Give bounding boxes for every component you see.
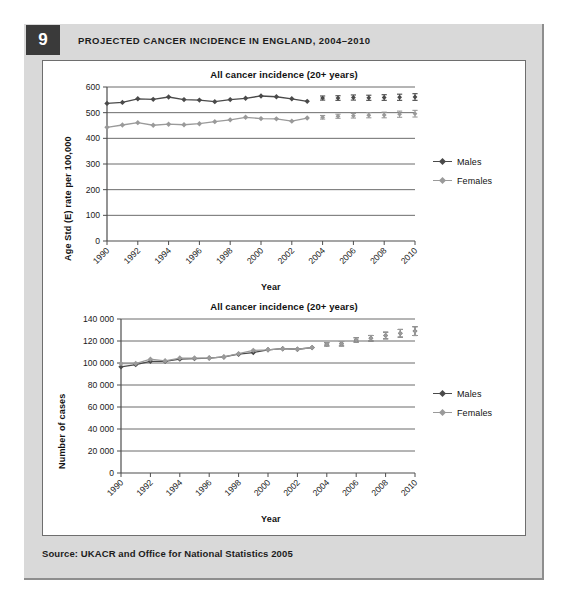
cases-chart: All cancer incidence (20+ years) Number …	[43, 301, 525, 529]
legend-item-males[interactable]: Males	[433, 154, 492, 169]
svg-text:0: 0	[95, 236, 100, 246]
svg-text:40 000: 40 000	[88, 424, 115, 434]
svg-text:300: 300	[86, 159, 101, 169]
svg-text:1998: 1998	[222, 477, 243, 498]
legend-item-females[interactable]: Females	[433, 405, 492, 420]
rate-chart: All cancer incidence (20+ years) Age Std…	[43, 69, 525, 297]
svg-text:2000: 2000	[252, 477, 273, 498]
svg-text:2008: 2008	[369, 477, 390, 498]
figure-header: 9 PROJECTED CANCER INCIDENCE IN ENGLAND,…	[24, 24, 544, 60]
svg-text:2006: 2006	[340, 477, 361, 498]
figure-number-badge: 9	[26, 25, 60, 55]
svg-text:2002: 2002	[281, 477, 302, 498]
svg-text:400: 400	[86, 133, 101, 143]
svg-text:600: 600	[86, 82, 101, 92]
chart-canvas: All cancer incidence (20+ years) Age Std…	[42, 60, 526, 536]
legend-marker-icon	[433, 157, 452, 167]
svg-text:1990: 1990	[105, 477, 126, 498]
legend-marker-icon	[433, 176, 452, 186]
svg-text:1992: 1992	[122, 245, 143, 266]
svg-text:1992: 1992	[134, 477, 155, 498]
svg-text:500: 500	[86, 108, 101, 118]
legend-label: Males	[457, 157, 482, 167]
svg-text:2004: 2004	[311, 477, 332, 498]
svg-text:1996: 1996	[193, 477, 214, 498]
svg-text:1994: 1994	[164, 477, 185, 498]
svg-text:60 000: 60 000	[88, 402, 115, 412]
svg-text:2004: 2004	[306, 245, 327, 266]
svg-text:140 000: 140 000	[83, 314, 114, 324]
legend-label: Females	[457, 408, 492, 418]
legend-marker-icon	[433, 389, 452, 399]
svg-text:100 000: 100 000	[83, 358, 114, 368]
figure-title: PROJECTED CANCER INCIDENCE IN ENGLAND, 2…	[78, 35, 370, 46]
svg-text:1998: 1998	[214, 245, 235, 266]
svg-text:2008: 2008	[368, 245, 389, 266]
svg-text:200: 200	[86, 185, 101, 195]
legend-item-females[interactable]: Females	[433, 173, 492, 188]
svg-text:80 000: 80 000	[88, 380, 115, 390]
rate-chart-x-axis-title: Year	[261, 282, 281, 292]
svg-text:1994: 1994	[152, 245, 173, 266]
figure-panel: 9 PROJECTED CANCER INCIDENCE IN ENGLAND,…	[24, 24, 544, 580]
svg-text:0: 0	[109, 468, 114, 478]
svg-text:2006: 2006	[337, 245, 358, 266]
legend-label: Males	[457, 389, 482, 399]
cases-chart-x-axis-title: Year	[261, 514, 281, 524]
legend-item-males[interactable]: Males	[433, 386, 492, 401]
cases-chart-legend: MalesFemales	[433, 386, 492, 424]
svg-text:100: 100	[86, 210, 101, 220]
svg-text:120 000: 120 000	[83, 336, 114, 346]
svg-text:1990: 1990	[91, 245, 112, 266]
svg-text:2010: 2010	[399, 245, 420, 266]
svg-text:2002: 2002	[276, 245, 297, 266]
svg-text:2010: 2010	[399, 477, 420, 498]
svg-text:20 000: 20 000	[88, 446, 115, 456]
figure-source: Source: UKACR and Office for National St…	[42, 548, 293, 559]
svg-text:2000: 2000	[245, 245, 266, 266]
rate-chart-legend: MalesFemales	[433, 154, 492, 192]
svg-text:1996: 1996	[183, 245, 204, 266]
legend-label: Females	[457, 176, 492, 186]
legend-marker-icon	[433, 408, 452, 418]
